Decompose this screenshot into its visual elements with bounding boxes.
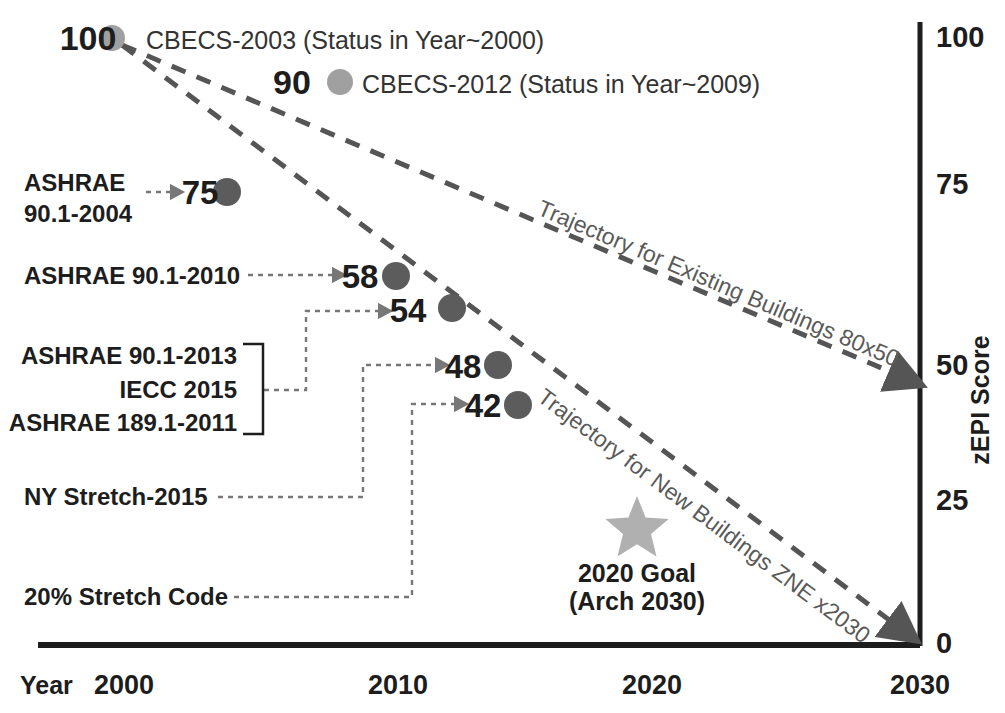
y-axis-title: zEPI Score [966, 335, 994, 464]
legend-value-cbecs-2012: 90 [273, 63, 311, 101]
annotation-bracket-line2: IECC 2015 [120, 376, 237, 403]
annotation-bracket-line1: ASHRAE 90.1-2013 [21, 342, 237, 369]
trajectory-label-existing: Trajectory for Existing Buildings 80x50 [534, 195, 903, 372]
y-tick-100: 100 [936, 21, 984, 53]
legend-label-cbecs-2012: CBECS-2012 (Status in Year~2009) [362, 70, 760, 98]
axes-group [38, 22, 920, 646]
x-tick-2010: 2010 [368, 670, 428, 700]
leader-line-stretch-code [234, 404, 456, 597]
annotation-bracket-line3: ASHRAE 189.1-2011 [9, 409, 237, 436]
chart-canvas: 100 CBECS-2003 (Status in Year~2000) 90 … [0, 0, 1005, 713]
annotation-value-48: 48 [445, 348, 482, 385]
y-axis-ticks-group: 100 75 50 25 0 zEPI Score [936, 21, 994, 659]
leader-line-ny-stretch [218, 365, 437, 497]
legend-value-cbecs-2003: 100 [60, 19, 117, 57]
annotation-goal-line1: 2020 Goal [578, 559, 696, 587]
annotation-value-42: 42 [465, 387, 502, 424]
annotation-value-58: 58 [342, 258, 379, 295]
bracket-group-ashrae-2013 [243, 344, 263, 434]
data-point-20-percent-stretch-code [504, 391, 532, 419]
y-tick-0: 0 [936, 627, 952, 659]
data-point-cbecs-2012 [327, 69, 353, 95]
y-tick-50: 50 [936, 349, 968, 381]
star-marker-2020-goal [605, 496, 668, 556]
annotation-ny-stretch-line1: NY Stretch-2015 [24, 483, 208, 510]
legend-label-cbecs-2003: CBECS-2003 (Status in Year~2000) [146, 26, 544, 54]
x-tick-2020: 2020 [622, 670, 682, 700]
data-point-ny-stretch-2015 [484, 351, 512, 379]
trajectory-lines-group [122, 45, 898, 625]
trajectory-new-buildings-line [122, 45, 896, 625]
annotation-goal-line2: (Arch 2030) [569, 587, 705, 615]
y-tick-25: 25 [936, 484, 968, 516]
legend-group: 100 CBECS-2003 (Status in Year~2000) 90 … [60, 19, 761, 101]
annotation-ashrae-2004-line2: 90.1-2004 [24, 200, 133, 227]
data-point-ashrae-90-1-2013-group [438, 294, 466, 322]
zepi-score-chart: 100 CBECS-2003 (Status in Year~2000) 90 … [0, 0, 1005, 713]
x-tick-2030: 2030 [890, 670, 950, 700]
annotation-ashrae-2004-line1: ASHRAE [24, 169, 125, 196]
data-point-ashrae-90-1-2010 [382, 262, 410, 290]
annotation-value-54: 54 [390, 292, 427, 329]
x-axis-ticks-group: Year 2000 2010 2020 2030 [20, 670, 950, 700]
star-icon [605, 496, 668, 556]
annotation-value-75: 75 [182, 174, 219, 211]
x-axis-prefix-label: Year [20, 671, 73, 699]
bracket-icon [243, 344, 263, 434]
x-tick-2000: 2000 [94, 670, 154, 700]
annotation-stretch-code-line1: 20% Stretch Code [24, 583, 228, 610]
y-tick-75: 75 [936, 168, 968, 200]
annotation-ashrae-2010-line1: ASHRAE 90.1-2010 [24, 262, 240, 289]
